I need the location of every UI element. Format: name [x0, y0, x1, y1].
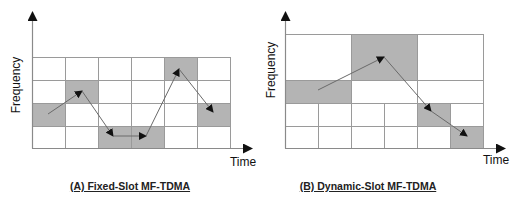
dynamic-slot-diagram: FrequencyTime	[264, 12, 509, 167]
slot-cell	[33, 58, 66, 81]
slot-cell-allocated	[66, 81, 99, 104]
slot-cell	[165, 127, 198, 149]
slot-cell-allocated	[418, 104, 451, 127]
slot-cell	[33, 127, 66, 149]
slot-cell-allocated	[165, 58, 198, 81]
x-axis-label: Time	[483, 153, 510, 167]
y-axis-label: Frequency	[264, 42, 278, 99]
slot-cell	[66, 58, 99, 81]
slot-cell	[132, 81, 165, 104]
slot-cell	[418, 35, 484, 81]
x-axis-label: Time	[230, 155, 257, 169]
slot-cell-allocated	[132, 127, 165, 149]
caption-dynamic-slot: (B) Dynamic-Slot MF-TDMA	[300, 180, 437, 192]
slot-cell	[418, 81, 484, 104]
slot-cell-allocated	[33, 104, 66, 127]
slot-cell	[66, 127, 99, 149]
slot-cell	[99, 104, 132, 127]
slot-cell	[286, 104, 319, 127]
slot-cell	[198, 81, 231, 104]
slot-cell-allocated	[451, 127, 484, 149]
slot-cell-allocated	[99, 127, 132, 149]
slot-cell	[352, 104, 385, 127]
caption-fixed-slot: (A) Fixed-Slot MF-TDMA	[70, 180, 190, 192]
slot-cell	[286, 35, 352, 81]
slot-cell	[385, 104, 418, 127]
slot-cell	[33, 81, 66, 104]
slot-cell-allocated	[286, 81, 352, 104]
slot-cell	[165, 81, 198, 104]
fixed-slot-diagram: FrequencyTime	[9, 12, 256, 169]
slot-cell	[352, 127, 385, 149]
mf-tdma-figure: FrequencyTime FrequencyTime	[0, 0, 519, 206]
slot-cell	[165, 104, 198, 127]
slot-cell	[319, 127, 352, 149]
slot-cell	[198, 127, 231, 149]
slot-cell	[99, 81, 132, 104]
slot-cell	[286, 127, 319, 149]
slot-cell	[385, 127, 418, 149]
slot-cell	[418, 127, 451, 149]
slot-cell	[198, 58, 231, 81]
slot-cell	[132, 58, 165, 81]
slot-cell-allocated	[198, 104, 231, 127]
slot-cell	[99, 58, 132, 81]
slot-cell	[132, 104, 165, 127]
slot-grid	[33, 58, 231, 149]
slot-cell	[319, 104, 352, 127]
slot-grid	[286, 35, 484, 149]
slot-cell	[451, 104, 484, 127]
y-axis-label: Frequency	[9, 57, 23, 114]
